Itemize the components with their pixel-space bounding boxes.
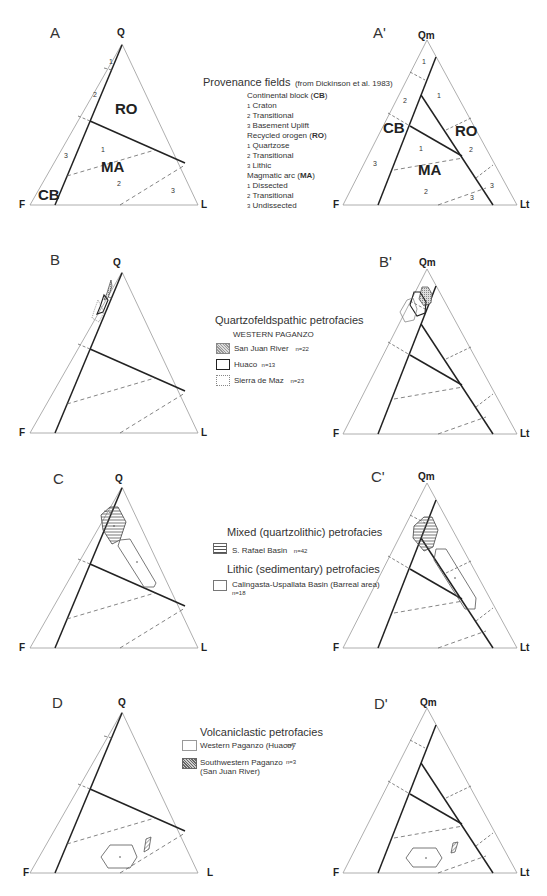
calingasta-uspallata-field xyxy=(434,549,476,609)
panel-label-d: D xyxy=(52,694,63,711)
vertex-f: F xyxy=(19,642,25,653)
field-num: 2 xyxy=(469,146,473,153)
southwestern-paganzo-field xyxy=(144,837,151,852)
s-rafael-basin-field xyxy=(413,517,438,551)
ternary-qmflt-b-prime xyxy=(343,269,517,434)
vertex-q: Q xyxy=(118,697,126,708)
panel-label-b: B xyxy=(50,251,60,268)
legend-provenance-fields: Provenance fields (from Dickinson et al.… xyxy=(203,72,393,90)
legend-group-cb: Continental block (CB) xyxy=(247,91,328,101)
legend-group-ro: Recycled orogen (RO) xyxy=(247,131,328,141)
legend-group-ma: Magmatic arc (MA) xyxy=(247,171,328,181)
vertex-lt: Lt xyxy=(520,867,529,878)
field-num: 2 xyxy=(117,180,121,187)
vertex-l: L xyxy=(207,867,213,878)
sierra-de-maz-field xyxy=(400,298,417,322)
vertex-f: F xyxy=(19,427,25,438)
legend-lithic-title: Lithic (sedimentary) petrofacies xyxy=(227,563,380,575)
field-num: 1 xyxy=(101,146,105,153)
field-num: 3 xyxy=(490,182,494,189)
western-paganzo-huaco-field xyxy=(406,848,442,867)
ternary-qfl-d xyxy=(30,712,198,873)
vertex-qm: Qm xyxy=(419,257,436,268)
panel-label-c-prime: C' xyxy=(371,468,385,485)
swatch-s-rafael-basin xyxy=(213,543,227,554)
ternary-qfl-b xyxy=(30,272,198,433)
field-num: 1 xyxy=(422,58,426,65)
legend-count-western-paganzo: n=7 xyxy=(286,742,296,748)
vertex-qm: Qm xyxy=(418,471,435,482)
vertex-l: L xyxy=(201,427,207,438)
vertex-f: F xyxy=(333,199,339,210)
panel-label-b-prime: B' xyxy=(379,253,392,270)
vertex-qm: Qm xyxy=(420,697,437,708)
swatch-huaco xyxy=(216,359,230,370)
vertex-lt: Lt xyxy=(520,199,529,210)
field-cb: CB xyxy=(38,186,60,203)
vertex-f: F xyxy=(23,867,29,878)
panel-label-a-prime: A' xyxy=(373,24,386,41)
ternary-qmflt-d-prime xyxy=(343,708,517,873)
vertex-q: Q xyxy=(113,257,121,268)
vertex-f: F xyxy=(19,199,25,210)
panel-label-c: C xyxy=(53,470,64,487)
vertex-f: F xyxy=(333,867,339,878)
vertex-f: F xyxy=(333,642,339,653)
legend-item-huaco: Huaco n=13 xyxy=(234,360,275,370)
field-num: 1 xyxy=(419,145,423,152)
field-num: 2 xyxy=(424,188,428,195)
vertex-l: L xyxy=(201,199,207,210)
legend-item-calingasta-uspallata: Calingasta-Uspallata Basin (Barreal area… xyxy=(232,580,380,590)
field-ma: MA xyxy=(101,158,124,175)
vertex-lt: Lt xyxy=(520,428,529,439)
legend-count-southwestern-paganzo: n=3 xyxy=(286,759,296,765)
southwestern-paganzo-field xyxy=(451,842,458,853)
swatch-calingasta-uspallata xyxy=(213,580,227,591)
ternary-qfl-c xyxy=(30,487,198,648)
field-num: 3 xyxy=(470,194,474,201)
swatch-san-juan-river xyxy=(216,343,230,354)
legend-item-san-juan-river: San Juan River n=22 xyxy=(234,344,309,354)
legend-quartzofeldspathic-title: Quartzofeldspathic petrofacies xyxy=(215,314,364,326)
vertex-q: Q xyxy=(115,473,123,484)
panel-label-d-prime: D' xyxy=(374,695,388,712)
field-ma: MA xyxy=(418,161,441,178)
panel-label-a: A xyxy=(50,24,60,41)
field-num: 3 xyxy=(373,160,377,167)
western-paganzo-huaco-field xyxy=(101,845,137,868)
legend-mixed-title: Mixed (quartzolithic) petrofacies xyxy=(227,526,382,538)
legend-volcaniclastic-title: Volcaniclastic petrofacies xyxy=(200,726,323,738)
field-cb: CB xyxy=(383,119,405,136)
vertex-qm: Qm xyxy=(418,30,435,41)
field-num: 2 xyxy=(403,97,407,104)
legend-provenance-list: Continental block (CB) 1 Craton 2 Transi… xyxy=(247,91,328,211)
legend-item-san-juan-river: (San Juan River) xyxy=(200,767,260,777)
field-ro: RO xyxy=(455,122,478,139)
legend-item-western-paganzo: Western Paganzo (Huaco) xyxy=(200,741,294,751)
field-ro: RO xyxy=(115,100,138,117)
vertex-l: L xyxy=(201,642,207,653)
field-num: 3 xyxy=(64,152,68,159)
ternary-qfl-a xyxy=(30,44,198,205)
field-num: 3 xyxy=(171,187,175,194)
vertex-f: F xyxy=(333,428,339,439)
field-num: 1 xyxy=(109,58,113,65)
swatch-western-paganzo xyxy=(182,740,197,751)
field-num: 2 xyxy=(93,91,97,98)
ternary-qmflt-a-prime xyxy=(343,40,517,205)
vertex-lt: Lt xyxy=(520,642,529,653)
legend-western-paganzo: WESTERN PAGANZO xyxy=(233,330,314,339)
legend-count-calingasta: n=18 xyxy=(232,590,246,596)
legend-item-sierra-de-maz: Sierra de Maz n=23 xyxy=(234,376,304,386)
swatch-sierra-de-maz xyxy=(216,375,230,386)
field-num: 1 xyxy=(437,92,441,99)
swatch-southwestern-paganzo xyxy=(182,758,197,769)
legend-item-s-rafael-basin: S. Rafael Basin n=42 xyxy=(232,546,307,556)
vertex-q: Q xyxy=(117,27,125,38)
